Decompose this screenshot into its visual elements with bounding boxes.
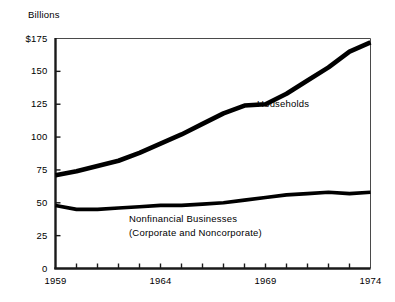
x-tick-label-1969: 1969: [236, 275, 296, 286]
series-annotation-line1: Nonfinancial Businesses: [129, 212, 262, 226]
x-tick-label-1974: 1974: [341, 275, 395, 286]
y-tick-label-0: 0: [8, 263, 48, 274]
series-annotation-line2: (Corporate and Noncorporate): [129, 226, 262, 240]
y-tick-label-75: 75: [8, 164, 48, 175]
y-tick-label-150: 150: [8, 65, 48, 76]
series-annotation-households: Households: [257, 98, 309, 109]
y-tick-label-100: 100: [8, 131, 48, 142]
chart-figure: Billions $1751501251007550250 1959196419…: [0, 0, 395, 302]
x-tick-label-1964: 1964: [131, 275, 191, 286]
y-tick-label-25: 25: [8, 230, 48, 241]
x-tick-label-1959: 1959: [26, 275, 86, 286]
y-tick-label-50: 50: [8, 197, 48, 208]
chart-plot-area: [0, 0, 395, 302]
y-tick-label-125: 125: [8, 98, 48, 109]
y-tick-label-175: $175: [8, 33, 48, 44]
series-annotation-nonfinancial-businesses: Nonfinancial Businesses (Corporate and N…: [129, 212, 262, 240]
series-lines: [56, 42, 371, 209]
